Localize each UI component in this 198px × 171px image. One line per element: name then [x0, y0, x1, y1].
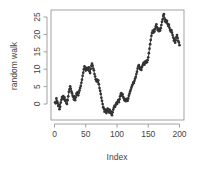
data-point — [69, 87, 72, 90]
data-point — [178, 41, 181, 44]
data-point — [149, 43, 152, 46]
data-point — [58, 108, 61, 111]
data-point — [69, 85, 72, 88]
data-point — [176, 37, 179, 40]
y-tick-label: 15 — [32, 47, 42, 57]
data-point — [82, 71, 85, 74]
data-point — [100, 96, 103, 99]
data-point — [136, 70, 139, 73]
data-point — [94, 75, 97, 78]
data-point — [170, 29, 173, 32]
data-point — [67, 95, 70, 98]
data-point — [135, 73, 138, 76]
data-point — [68, 90, 71, 93]
data-point — [98, 83, 101, 86]
data-point — [149, 39, 152, 42]
data-point — [74, 99, 77, 102]
y-tick-label: 10 — [32, 64, 42, 74]
data-point — [89, 72, 92, 75]
data-point — [153, 30, 156, 33]
data-point — [80, 81, 83, 84]
data-point — [118, 98, 121, 101]
data-point — [93, 69, 96, 72]
data-point — [78, 89, 81, 92]
data-point — [159, 29, 162, 32]
data-point — [168, 23, 171, 26]
data-point — [66, 103, 69, 106]
data-point — [148, 47, 151, 50]
data-point — [160, 24, 163, 27]
data-point — [99, 93, 102, 96]
x-tick-label: 0 — [52, 129, 57, 139]
y-tick-label: 0 — [32, 101, 42, 106]
y-tick-label: 5 — [32, 84, 42, 89]
data-point — [163, 13, 166, 16]
data-point — [171, 31, 174, 34]
x-tick-label: 150 — [141, 129, 155, 139]
data-point — [91, 64, 94, 67]
data-point — [71, 92, 74, 95]
data-point — [79, 85, 82, 88]
data-point — [134, 76, 137, 79]
data-point — [111, 114, 114, 117]
data-point — [174, 41, 177, 44]
data-point — [161, 21, 164, 24]
x-tick-label: 50 — [81, 129, 91, 139]
data-point — [78, 92, 81, 95]
data-point — [150, 34, 153, 37]
data-point — [171, 34, 174, 37]
data-point — [111, 111, 114, 114]
data-point — [59, 101, 62, 104]
data-point — [55, 97, 58, 100]
x-tick-label: 100 — [110, 129, 124, 139]
data-point — [140, 69, 143, 72]
chart-root: 050100150200 0510152025 Index random wal… — [0, 0, 198, 171]
data-point — [159, 27, 162, 30]
data-point — [66, 99, 69, 102]
data-point — [101, 100, 104, 103]
x-axis-label: Index — [107, 152, 129, 162]
data-point — [74, 96, 77, 99]
data-point — [99, 89, 102, 92]
data-point — [126, 100, 129, 103]
y-tick-label: 20 — [32, 29, 42, 39]
data-point — [178, 44, 181, 47]
x-tick-label: 200 — [172, 129, 186, 139]
y-tick-label: 25 — [32, 12, 42, 22]
data-point — [93, 73, 96, 76]
data-point — [166, 19, 169, 22]
data-point — [59, 105, 62, 108]
data-point — [77, 94, 80, 97]
data-point — [63, 96, 66, 99]
data-point — [98, 87, 101, 90]
data-point — [121, 93, 124, 96]
data-point — [133, 82, 136, 85]
data-point — [146, 59, 149, 62]
data-point — [176, 34, 179, 37]
data-point — [89, 68, 92, 71]
data-point — [147, 56, 150, 59]
data-point — [174, 39, 177, 42]
data-point — [97, 79, 100, 82]
data-point — [155, 23, 158, 26]
data-point — [101, 103, 104, 106]
data-point — [81, 78, 84, 81]
data-point — [127, 97, 130, 100]
data-point — [148, 52, 151, 55]
data-point — [118, 101, 121, 104]
data-point — [81, 74, 84, 77]
y-axis-label: random walk — [9, 41, 19, 90]
